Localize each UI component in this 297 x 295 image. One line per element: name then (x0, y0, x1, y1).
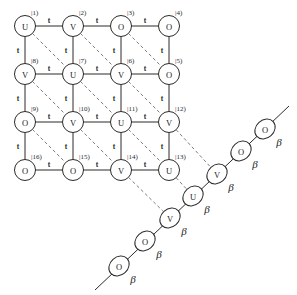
node-symbol: V (22, 70, 29, 80)
bond-label-t: t (65, 46, 68, 55)
lattice-diagram: ttttttttttttttttttttttttU|1)V|2)O|3)O|4)… (0, 0, 297, 295)
node-symbol: O (116, 262, 122, 272)
node-index-label: |13) (175, 153, 186, 161)
dashed-chain-link (129, 177, 163, 211)
bond-label-t: t (161, 142, 164, 151)
node-symbol: V (70, 22, 77, 32)
node-index-label: |4) (175, 9, 183, 17)
node-symbol: V (118, 166, 125, 176)
chain-node[interactable]: Oβ (251, 115, 282, 148)
bond-label-beta: β (155, 248, 162, 260)
node-symbol: O (22, 166, 28, 176)
node-symbol: O (262, 125, 268, 135)
bond-label-t: t (144, 112, 147, 121)
bond-label-t: t (144, 160, 147, 169)
node-symbol: U (22, 22, 28, 32)
bond-label-beta: β (180, 225, 187, 237)
node-symbol: O (118, 22, 124, 32)
lattice-node[interactable]: U|13) (159, 153, 187, 181)
node-index-label: |5) (175, 57, 183, 65)
lattice-node[interactable]: O|15) (63, 153, 91, 181)
bond-label-t: t (48, 64, 51, 73)
bond-label-t: t (96, 64, 99, 73)
lattice-node[interactable]: V|10) (63, 105, 91, 133)
node-index-label: |1) (31, 9, 39, 17)
chain-node[interactable]: Vβ (156, 204, 187, 237)
bond-label-t: t (113, 142, 116, 151)
node-index-label: |11) (127, 105, 138, 113)
node-index-label: |2) (79, 9, 87, 17)
bond-label-t: t (96, 16, 99, 25)
chain-node[interactable]: Oβ (131, 227, 162, 260)
node-index-label: |12) (175, 105, 186, 113)
node-index-label: |7) (79, 57, 87, 65)
chain-node[interactable]: Oβ (227, 137, 258, 170)
bond-label-t: t (17, 142, 20, 151)
bond-label-t: t (113, 94, 116, 103)
node-index-label: |3) (127, 9, 135, 17)
node-symbol: V (214, 170, 221, 180)
lattice-node[interactable]: V|2) (63, 9, 87, 37)
bond-label-t: t (113, 46, 116, 55)
node-symbol: O (70, 166, 76, 176)
bond-label-beta: β (129, 273, 136, 285)
bond-label-beta: β (203, 203, 210, 215)
lattice-node[interactable]: U|11) (111, 105, 139, 133)
node-symbol: U (70, 70, 76, 80)
lattice-node[interactable]: O|4) (159, 9, 183, 37)
node-symbol: O (238, 147, 244, 157)
node-symbol: V (118, 70, 125, 80)
bond-label-t: t (161, 94, 164, 103)
lattice-node[interactable]: U|7) (63, 57, 87, 85)
lattice-node[interactable]: V|14) (111, 153, 139, 181)
node-symbol: U (190, 192, 196, 202)
bond-label-t: t (17, 46, 20, 55)
chain-node[interactable]: Uβ (179, 182, 210, 215)
lattice-node[interactable]: U|1) (15, 9, 39, 37)
node-index-label: |16) (31, 153, 42, 161)
lattice-node[interactable]: V|8) (15, 57, 39, 85)
diagram-canvas: ttttttttttttttttttttttttU|1)V|2)O|3)O|4)… (0, 0, 297, 295)
node-symbol: O (22, 118, 28, 128)
node-index-label: |8) (31, 57, 39, 65)
bond-label-t: t (48, 16, 51, 25)
lattice-node[interactable]: V|12) (159, 105, 187, 133)
node-index-label: |15) (79, 153, 90, 161)
bond-label-t: t (144, 16, 147, 25)
node-index-label: |14) (127, 153, 138, 161)
bond-label-t: t (65, 94, 68, 103)
node-symbol: V (167, 214, 174, 224)
node-symbol: O (166, 70, 172, 80)
bond-label-beta: β (227, 181, 234, 193)
bond-label-t: t (65, 142, 68, 151)
dashed-chain-link (176, 130, 210, 167)
bond-label-t: t (161, 46, 164, 55)
bond-label-t: t (48, 112, 51, 121)
node-symbol: O (142, 237, 148, 247)
node-index-label: |9) (31, 105, 39, 113)
node-index-label: |10) (79, 105, 90, 113)
node-symbol: V (166, 118, 173, 128)
bond-label-t: t (17, 94, 20, 103)
bond-label-beta: β (275, 136, 282, 148)
chain-node[interactable]: Oβ (105, 252, 136, 285)
bond-label-t: t (96, 160, 99, 169)
node-symbol: U (118, 118, 124, 128)
chain-node[interactable]: Vβ (203, 160, 234, 193)
node-symbol: O (166, 22, 172, 32)
bond-label-beta: β (251, 158, 258, 170)
node-symbol: V (70, 118, 77, 128)
bond-label-t: t (48, 160, 51, 169)
bond-label-t: t (144, 64, 147, 73)
bond-label-t: t (96, 112, 99, 121)
lattice-node[interactable]: O|16) (15, 153, 43, 181)
lattice-node[interactable]: O|9) (15, 105, 39, 133)
node-symbol: U (166, 166, 172, 176)
lattice-node[interactable]: O|5) (159, 57, 183, 85)
lattice-node[interactable]: V|6) (111, 57, 135, 85)
lattice-node[interactable]: O|3) (111, 9, 135, 37)
node-index-label: |6) (127, 57, 135, 65)
dashed-chain-link (176, 178, 186, 189)
